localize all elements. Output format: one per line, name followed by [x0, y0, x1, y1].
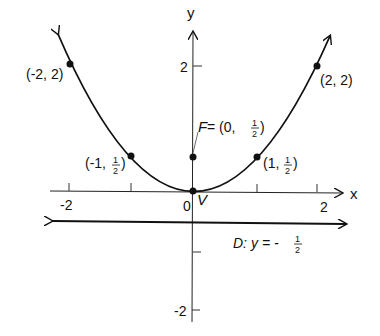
svg-text:(1,: (1, — [263, 155, 279, 171]
svg-text:1: 1 — [285, 155, 290, 165]
y-axis — [192, 32, 202, 322]
svg-text:): ) — [293, 155, 298, 171]
directrix-line — [52, 221, 346, 224]
svg-text:= (0,: = (0, — [207, 119, 235, 135]
svg-text:y = -: y = - — [250, 235, 279, 251]
svg-text:2: 2 — [252, 129, 257, 139]
point-neg2-2 — [67, 61, 74, 68]
vertex-label: V — [197, 191, 209, 208]
svg-text:): ) — [260, 119, 265, 135]
svg-text:1: 1 — [252, 118, 257, 128]
x-tick-2: 2 — [320, 199, 328, 215]
svg-text:2: 2 — [113, 166, 118, 176]
y-tick-2: 2 — [180, 59, 188, 75]
point-neg1-half — [128, 153, 135, 160]
x-tick-0: 0 — [183, 198, 191, 214]
svg-text:(-1,: (-1, — [85, 155, 106, 171]
svg-text:1: 1 — [295, 234, 300, 244]
label-1-half: (1, 1 2 ) — [263, 155, 298, 176]
vertex-point — [190, 188, 197, 195]
svg-text:1: 1 — [113, 155, 118, 165]
x-tick-neg2: -2 — [60, 197, 73, 213]
svg-text:2: 2 — [285, 166, 290, 176]
x-axis-label: x — [350, 185, 358, 202]
point-2-2 — [314, 63, 321, 70]
svg-text:D:: D: — [233, 235, 247, 251]
focus-label: F = (0, 1 2 ) — [198, 118, 265, 139]
label-neg2-2: (-2, 2) — [26, 66, 63, 82]
directrix-label: D: y = - 1 2 — [233, 234, 302, 255]
svg-text:2: 2 — [295, 245, 300, 255]
point-1-half — [254, 154, 261, 161]
y-axis-label: y — [187, 4, 195, 21]
focus-point — [190, 154, 197, 161]
parabola-diagram: x -2 0 2 y 2 -2 (-2, 2) (2, 2) (-1, 1 2 … — [0, 0, 380, 336]
y-tick-neg2: -2 — [174, 303, 187, 319]
focus-leader-line — [193, 132, 198, 153]
label-2-2: (2, 2) — [320, 72, 353, 88]
label-neg1-half: (-1, 1 2 ) — [85, 155, 126, 176]
svg-text:): ) — [121, 155, 126, 171]
